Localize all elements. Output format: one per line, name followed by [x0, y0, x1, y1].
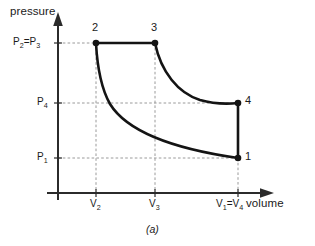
state-point-1 [235, 155, 242, 162]
process-curve-1-2 [96, 43, 238, 158]
cycle-curves [96, 43, 238, 158]
y-axis-arrowhead [53, 12, 63, 26]
state-point-3 [152, 40, 159, 47]
axes [47, 12, 274, 200]
process-curve-3-4 [155, 43, 238, 104]
x-axis-arrowhead [260, 188, 274, 198]
gridlines [58, 43, 238, 193]
state-point-2 [93, 40, 100, 47]
pv-diagram-canvas [0, 0, 315, 246]
tick-marks [54, 43, 238, 197]
state-point-4 [235, 100, 242, 107]
pv-diagram-figure: pressure volume P2=P3 P4 P1 V2 V3 V1=V4 … [0, 0, 315, 246]
